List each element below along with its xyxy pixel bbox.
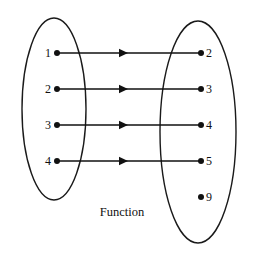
codomain-node-dot (198, 158, 204, 164)
domain-nodes-group: 1234 (45, 46, 60, 168)
domain-node-label: 4 (45, 154, 51, 168)
codomain-node-label: 9 (206, 190, 212, 204)
mapping-arrow-head (119, 157, 128, 165)
codomain-node-label: 4 (206, 118, 212, 132)
codomain-node-label: 2 (206, 46, 212, 60)
domain-node-dot (54, 50, 60, 56)
domain-node-dot (54, 122, 60, 128)
mapping-arrow-head (119, 49, 128, 57)
domain-node-dot (54, 86, 60, 92)
codomain-node-dot (198, 50, 204, 56)
codomain-node-label: 3 (206, 82, 212, 96)
mapping-arrows-group (58, 49, 200, 165)
domain-node-label: 3 (45, 118, 51, 132)
mapping-arrow-head (119, 85, 128, 93)
codomain-node-dot (198, 194, 204, 200)
codomain-nodes-group: 23459 (198, 46, 212, 204)
codomain-node-dot (198, 122, 204, 128)
diagram-canvas: 1234 23459 Function (0, 0, 262, 260)
domain-node-label: 2 (45, 82, 51, 96)
function-mapping-diagram: 1234 23459 Function (0, 0, 262, 260)
domain-set-ellipse (22, 18, 86, 200)
codomain-node-dot (198, 86, 204, 92)
mapping-arrow-head (119, 121, 128, 129)
diagram-caption: Function (100, 205, 145, 219)
codomain-node-label: 5 (206, 154, 212, 168)
domain-node-label: 1 (45, 46, 51, 60)
domain-node-dot (54, 158, 60, 164)
codomain-set-ellipse (160, 21, 236, 243)
